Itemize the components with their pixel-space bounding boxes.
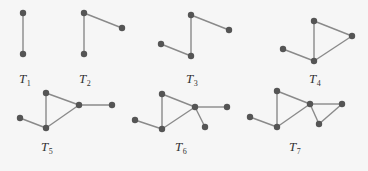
edge [191,15,229,30]
vertex [76,102,82,108]
edge [46,105,79,128]
vertex [311,58,317,64]
graph-label: T2 [79,71,91,88]
graph-t1: T1 [19,10,31,88]
edge [195,107,205,127]
vertex [316,121,322,127]
edge [310,104,319,124]
vertex [43,90,49,96]
vertex [43,125,49,131]
edge [277,91,310,104]
graph-t5: T5 [17,90,115,156]
edge [161,44,191,56]
vertex [17,115,23,121]
graph-label: T7 [289,139,301,156]
vertex [159,126,165,132]
vertex [307,101,313,107]
graph-t4: T4 [280,18,355,88]
graph-label-subscript: 1 [27,79,31,88]
edge [314,36,352,61]
vertex [274,88,280,94]
graph-t6: T6 [132,91,230,156]
edge [283,49,314,61]
edge [319,104,342,124]
vertex [158,41,164,47]
vertex [81,10,87,16]
edge [46,93,79,105]
vertex [349,33,355,39]
graph-label: T4 [309,71,321,88]
vertex [224,104,230,110]
vertex [247,114,253,120]
edge [135,120,162,129]
vertex [274,124,280,130]
vertex [202,124,208,130]
vertex [20,51,26,57]
edge [84,13,122,28]
graph-label-subscript: 6 [183,147,187,156]
tree-diagram: T1T2T3T4T5T6T7 [0,0,368,171]
edge [314,21,352,36]
graph-label-subscript: 3 [194,79,198,88]
edge [162,107,195,129]
edge [250,117,277,127]
graph-label: T1 [19,71,31,88]
graph-label: T3 [186,71,198,88]
graph-t3: T3 [158,12,232,88]
vertex [159,91,165,97]
vertex [20,10,26,16]
edge [20,118,46,128]
vertex [280,46,286,52]
graph-label-subscript: 7 [297,147,301,156]
vertex [311,18,317,24]
graph-label-subscript: 4 [317,79,321,88]
vertex [132,117,138,123]
graph-t7: T7 [247,88,345,156]
graph-t2: T2 [79,10,125,88]
vertex [192,104,198,110]
graph-label: T6 [175,139,187,156]
vertex [339,101,345,107]
vertex [188,12,194,18]
edge [277,104,310,127]
vertex [188,53,194,59]
graph-label: T5 [41,139,53,156]
vertex [81,51,87,57]
vertex [119,25,125,31]
vertex [226,27,232,33]
graph-label-subscript: 2 [87,79,91,88]
vertex [109,102,115,108]
graph-label-subscript: 5 [49,147,53,156]
edge [162,94,195,107]
